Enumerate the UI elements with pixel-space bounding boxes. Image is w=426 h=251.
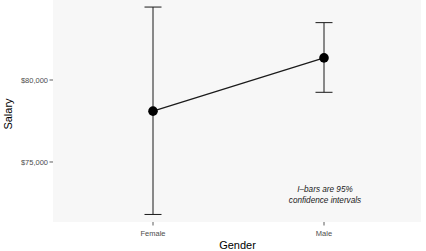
x-axis: FemaleMale [140, 222, 332, 238]
x-tick-label: Male [316, 229, 332, 238]
y-axis-title: Salary [2, 98, 14, 130]
y-axis: $75,000$80,000 [21, 76, 53, 167]
y-tick-label: $80,000 [21, 76, 48, 85]
salary-by-gender-chart: $75,000$80,000 FemaleMale I–bars are 95%… [0, 0, 426, 251]
x-tick-label: Female [140, 229, 165, 238]
mean-point [148, 106, 158, 116]
mean-point [319, 53, 329, 63]
annotation-line-1: I–bars are 95% [297, 185, 353, 194]
annotation-line-2: confidence intervals [289, 196, 361, 205]
plot-panel [53, 0, 421, 222]
x-axis-title: Gender [219, 239, 256, 251]
y-tick-label: $75,000 [21, 158, 48, 167]
